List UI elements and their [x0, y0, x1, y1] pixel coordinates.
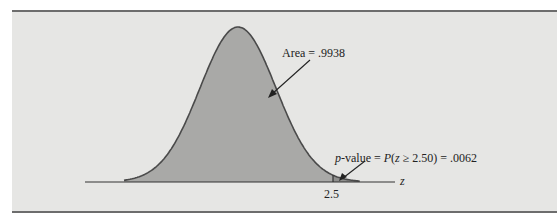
pvalue-p: p — [334, 151, 341, 165]
normal-curve-chart: Area = .9938 p-value = P(z ≥ 2.50) = .00… — [0, 0, 557, 220]
tick-label-2-5: 2.5 — [324, 187, 339, 201]
pvalue-rest: ≥ 2.50) = .0062 — [400, 151, 477, 165]
area-label: Area = .9938 — [282, 46, 345, 60]
pvalue-mid: -value = — [341, 151, 384, 165]
area-arrow — [272, 60, 310, 94]
pvalue-label: p-value = P(z ≥ 2.50) = .0062 — [334, 151, 477, 165]
axis-label-z: z — [399, 174, 405, 188]
